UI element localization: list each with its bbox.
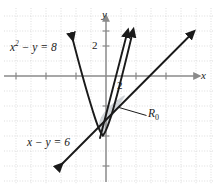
region-label-subscript: 0	[155, 113, 159, 122]
x-axis-label: x	[201, 70, 206, 81]
parabola-eq-rest: − y = 8	[19, 41, 57, 53]
graph-canvas	[0, 0, 215, 190]
x-axis-tick-label-2: 2	[117, 80, 123, 91]
region-leader-line	[119, 108, 147, 116]
parabola-equation-label: x2 − y = 8	[10, 42, 57, 54]
math-graph-figure: x2 − y = 8 x − y = 6 y x 2 2 R0	[0, 0, 215, 190]
y-axis-tick-label-2: 2	[92, 40, 98, 51]
line-equation-label: x − y = 6	[27, 137, 70, 149]
grid-vertical	[16, 8, 211, 184]
region-label-letter: R	[148, 107, 155, 119]
y-axis-label: y	[102, 9, 107, 20]
region-label-r0: R0	[148, 108, 159, 120]
